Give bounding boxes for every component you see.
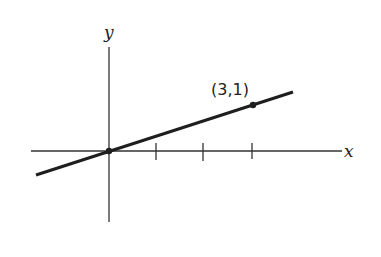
x-axis-label: x [344,141,354,161]
point-3-1 [250,102,256,108]
coordinate-diagram: y x (3,1) [0,0,381,257]
point-label: (3,1) [211,80,249,99]
y-axis-label: y [103,22,114,42]
origin-point [106,148,112,154]
